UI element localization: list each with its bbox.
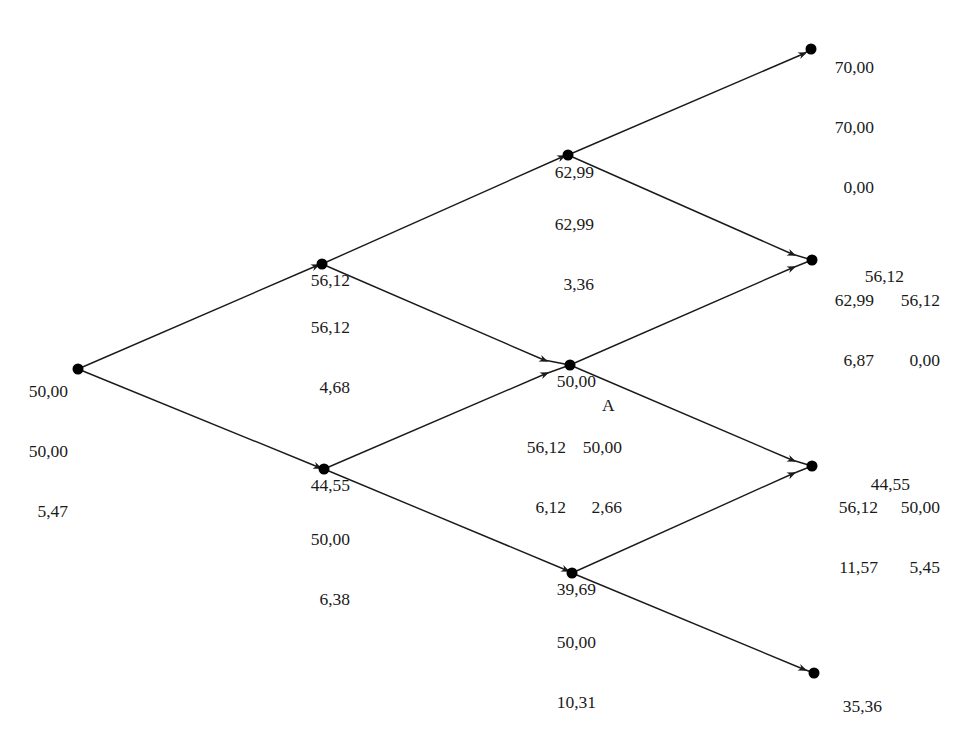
node-n22-bottom: 50,00 10,31 xyxy=(536,592,596,732)
edge-n20-n31 xyxy=(568,155,812,260)
tree-edges xyxy=(0,0,954,734)
node-n00-label: 50,00 50,00 5,47 xyxy=(10,341,68,541)
edge-n22-n33 xyxy=(572,573,814,673)
edge-n00-n11 xyxy=(78,369,324,469)
node-n32 xyxy=(807,461,818,472)
node-n11-bottom: 50,00 6,38 xyxy=(290,489,350,629)
edge-n10-n20 xyxy=(322,155,568,264)
node-n00 xyxy=(73,364,84,375)
node-n30-label: 70,00 70,00 0,00 xyxy=(824,17,874,217)
node-n10-bottom: 56,12 4,68 xyxy=(290,277,350,417)
node-n00-option-value: 5,47 xyxy=(10,501,68,521)
node-n32-right: 50,00 5,45 xyxy=(886,457,940,597)
node-n31-right: 56,12 0,00 xyxy=(886,250,940,390)
node-n31 xyxy=(807,255,818,266)
node-n33 xyxy=(809,668,820,679)
node-n32-left: 56,12 11,57 xyxy=(824,457,878,597)
node-n21-bottom-left: 56,12 6,12 xyxy=(508,397,566,537)
node-n31-left: 62,99 6,87 xyxy=(824,250,874,390)
node-n00-strike: 50,00 xyxy=(10,441,68,461)
edge-n00-n10 xyxy=(78,264,322,369)
edge-n21-n31 xyxy=(570,260,812,365)
node-n33-label: 35,36 50,00 14,64 xyxy=(826,656,882,734)
node-n00-stock-price: 50,00 xyxy=(10,381,68,401)
edge-n20-n30 xyxy=(568,49,811,155)
edge-n10-n21 xyxy=(322,264,570,365)
node-n30 xyxy=(806,44,817,55)
node-n20-bottom: 62,99 3,36 xyxy=(534,174,594,314)
node-n21-bottom-right: 50,00 2,66 xyxy=(570,397,622,537)
